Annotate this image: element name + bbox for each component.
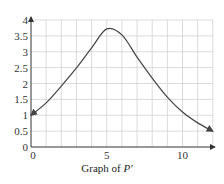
y-tick-label: 0 — [23, 141, 29, 153]
y-tick-label: 2.5 — [14, 62, 28, 74]
y-tick-label: 3.5 — [14, 30, 28, 42]
caption-variable: P′ — [123, 162, 134, 174]
x-tick-label: 10 — [177, 149, 189, 161]
caption-text: Graph of — [81, 162, 123, 174]
y-tick-label: 2 — [23, 78, 29, 90]
y-tick-label: 4 — [23, 14, 29, 26]
y-tick-label: 1.5 — [14, 93, 28, 105]
x-tick-label: 0 — [30, 149, 36, 161]
y-tick-label: 0.5 — [14, 125, 28, 137]
chart-caption: Graph of P′ — [81, 162, 133, 174]
grid — [31, 20, 213, 147]
x-tick-label: 5 — [104, 149, 110, 161]
y-tick-label: 1 — [23, 109, 29, 121]
y-tick-label: 3 — [23, 46, 29, 58]
chart: 00.511.522.533.540510 Graph of P′ — [0, 0, 224, 184]
